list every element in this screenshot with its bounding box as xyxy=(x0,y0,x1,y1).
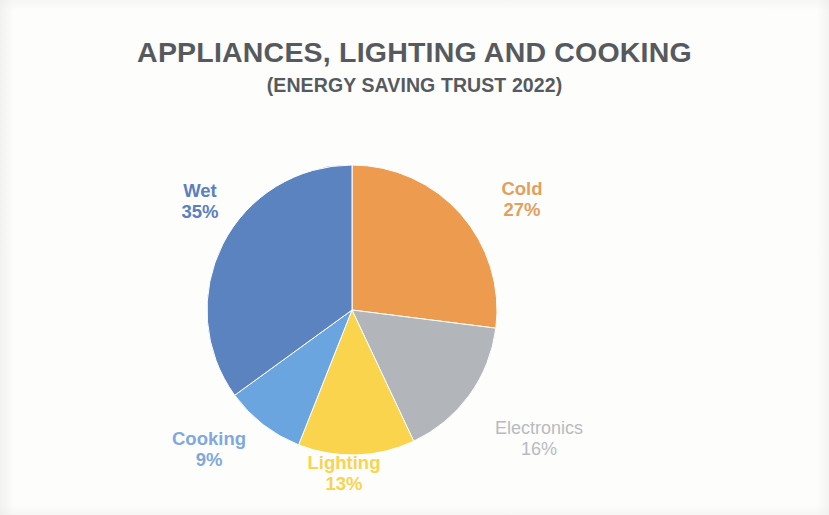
slice-value-cold: 27% xyxy=(470,199,574,220)
pie-chart-svg xyxy=(0,0,829,515)
slice-label-cooking: Cooking 9% xyxy=(141,428,277,470)
slice-label-wet: Wet 35% xyxy=(148,180,252,222)
slice-name-cold: Cold xyxy=(470,178,574,199)
slice-name-cooking: Cooking xyxy=(141,428,277,449)
slice-value-electronics: 16% xyxy=(466,439,612,460)
slice-name-electronics: Electronics xyxy=(466,418,612,439)
slice-name-lighting: Lighting xyxy=(278,452,410,473)
slice-label-lighting: Lighting 13% xyxy=(278,452,410,494)
slice-label-cold: Cold 27% xyxy=(470,178,574,220)
slice-name-wet: Wet xyxy=(148,180,252,201)
slice-label-electronics: Electronics 16% xyxy=(466,418,612,459)
chart-page: APPLIANCES, LIGHTING AND COOKING (ENERGY… xyxy=(0,0,829,515)
pie-chart: Wet 35% Cold 27% Electronics 16% Lightin… xyxy=(0,0,829,515)
slice-value-wet: 35% xyxy=(148,201,252,222)
slice-value-cooking: 9% xyxy=(141,449,277,470)
slice-value-lighting: 13% xyxy=(278,473,410,494)
